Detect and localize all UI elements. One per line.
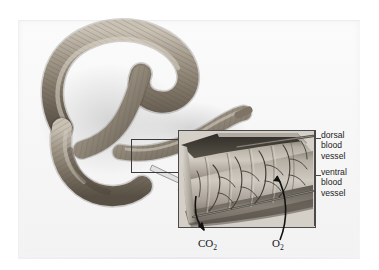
label-o2: O2 (272, 237, 284, 252)
label-ventral-line-2: blood (321, 177, 347, 187)
label-dorsal-line-3: vessel (321, 151, 345, 161)
o2-formula: O (272, 237, 280, 249)
leader-line-dorsal (314, 138, 321, 139)
co2-diffusion-arrow (188, 196, 230, 242)
co2-formula: CO (198, 237, 213, 249)
figure-earthworm-gas-exchange: dorsal blood vessel ventral blood vessel… (0, 0, 379, 270)
o2-subscript: 2 (280, 243, 284, 252)
label-ventral-line-1: ventral (321, 167, 347, 177)
co2-subscript: 2 (213, 243, 217, 252)
label-co2: CO2 (198, 237, 217, 252)
label-dorsal-blood-vessel: dorsal blood vessel (321, 130, 345, 161)
leader-line-ventral (314, 175, 321, 176)
label-ventral-line-3: vessel (321, 188, 347, 198)
label-dorsal-line-2: blood (321, 140, 345, 150)
label-dorsal-line-1: dorsal (321, 130, 345, 140)
o2-diffusion-arrow (258, 168, 304, 242)
leader-line-bracket (314, 130, 315, 226)
label-ventral-blood-vessel: ventral blood vessel (321, 167, 347, 198)
